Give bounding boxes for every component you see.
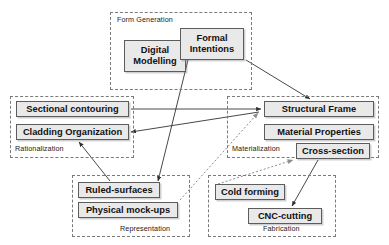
node-physical-mock-ups[interactable]: Physical mock-ups [78, 202, 178, 218]
node-sectional-contouring[interactable]: Sectional contouring [16, 101, 129, 117]
group-label-form-generation: Form Generation [116, 15, 174, 24]
node-formal-intentions[interactable]: Formal Intentions [180, 28, 244, 60]
group-label-materialization: Materialization [231, 144, 281, 153]
node-cross-section[interactable]: Cross-section [296, 143, 370, 159]
node-structural-frame[interactable]: Structural Frame [264, 101, 374, 117]
group-label-rationalization: Rationalization [14, 144, 65, 153]
node-cold-forming[interactable]: Cold forming [215, 184, 285, 200]
node-cladding-organization[interactable]: Cladding Organization [16, 124, 129, 140]
node-material-properties[interactable]: Material Properties [264, 124, 374, 140]
group-label-representation: Representation [119, 224, 171, 233]
edge-formal-intentions-to-structural-frame [246, 60, 310, 99]
node-ruled-surfaces[interactable]: Ruled-surfaces [78, 182, 160, 198]
node-cnc-cutting[interactable]: CNC-cutting [248, 208, 322, 224]
node-digital-modelling[interactable]: Digital Modelling [124, 40, 186, 72]
diagram-canvas: Form Generation Rationalization Material… [0, 0, 389, 245]
group-label-fabrication: Fabrication [262, 224, 301, 233]
